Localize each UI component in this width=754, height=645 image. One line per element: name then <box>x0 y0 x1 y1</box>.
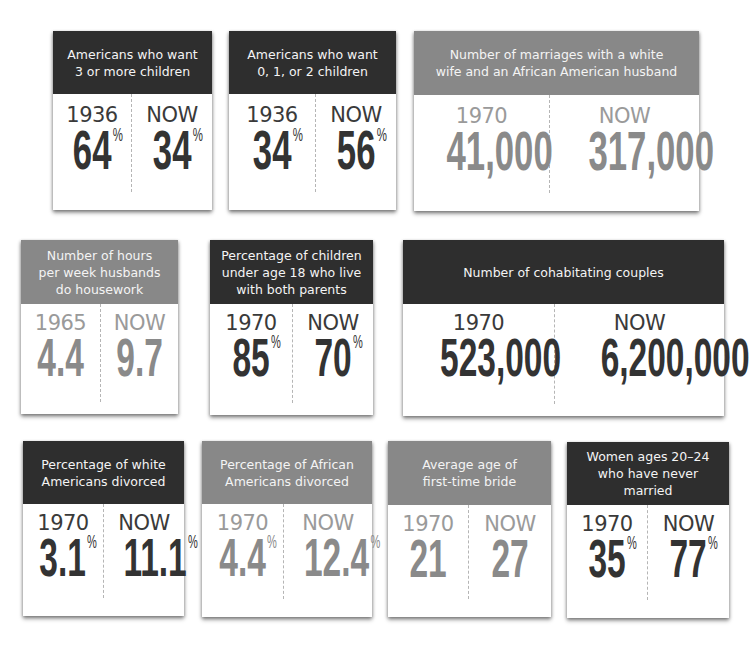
stat-value: 9.7 <box>116 330 163 384</box>
stat-value: 3.1% <box>40 530 87 584</box>
card-title-line: Americans divorced <box>42 474 166 489</box>
card-title-line: Percentage of white <box>41 457 166 472</box>
card-title-line: Number of marriages with a white <box>450 47 664 62</box>
stat-then: 1970 85% <box>210 304 292 415</box>
stat-value: 41,000 <box>447 123 553 179</box>
stat-value: 56% <box>337 122 376 178</box>
card-title-line: Women ages 20–24 <box>587 449 710 464</box>
stat-now: NOW 77% <box>648 505 729 618</box>
stat-value: 34% <box>153 122 192 178</box>
card-header: Number of marriages with a whitewife and… <box>414 31 699 95</box>
card-husband-housework-hours: Number of hoursper week husbandsdo house… <box>21 240 178 414</box>
card-children-both-parents: Percentage of childrenunder age 18 who l… <box>210 240 373 415</box>
card-header: Average age offirst-time bride <box>388 441 551 505</box>
stat-value: 523,000 <box>440 330 561 384</box>
card-title-line: Percentage of African <box>220 457 354 472</box>
card-african-americans-divorced: Percentage of AfricanAmericans divorced … <box>202 441 372 617</box>
card-interracial-marriages: Number of marriages with a whitewife and… <box>414 31 699 211</box>
stat-value: 11.1% <box>123 530 186 584</box>
stat-now: NOW 11.1% <box>104 504 184 616</box>
card-white-americans-divorced: Percentage of whiteAmericans divorced 19… <box>23 441 184 616</box>
stat-then: 1970 41,000 <box>414 95 549 211</box>
card-header: Percentage of childrenunder age 18 who l… <box>210 240 373 304</box>
card-title-line: under age 18 who live <box>222 265 362 280</box>
stat-value: 70% <box>314 330 351 384</box>
card-avg-age-first-bride: Average age offirst-time bride 1970 21 N… <box>388 441 551 617</box>
card-header: Number of hoursper week husbandsdo house… <box>21 240 178 304</box>
stat-value: 27 <box>491 531 528 585</box>
stat-value: 4.4% <box>219 530 266 584</box>
stat-now: NOW 56% <box>316 94 396 210</box>
stat-value: 21 <box>409 531 446 585</box>
stat-then: 1936 64% <box>53 94 131 210</box>
stat-value: 4.4 <box>37 330 84 384</box>
stat-value: 34% <box>253 122 292 178</box>
stat-now: NOW 6,200,000 <box>555 304 724 416</box>
card-title-line: 0, 1, or 2 children <box>257 64 368 79</box>
card-title-line: Number of cohabitating couples <box>463 265 664 280</box>
stat-now: NOW 34% <box>132 94 212 210</box>
card-title-line: first-time bride <box>423 474 516 489</box>
card-want-3-plus-children: Americans who want3 or more children 193… <box>53 31 212 210</box>
stat-then: 1970 35% <box>567 505 647 618</box>
card-header: Women ages 20–24who have never married <box>567 442 729 505</box>
card-title-line: Average age of <box>422 457 517 472</box>
card-header: Number of cohabitating couples <box>403 240 724 304</box>
stat-then: 1970 21 <box>388 505 468 617</box>
stat-value: 77% <box>670 531 707 585</box>
card-want-0-2-children: Americans who want0, 1, or 2 children 19… <box>229 31 396 210</box>
card-title-line: who have never married <box>598 466 698 498</box>
stat-now: NOW 317,000 <box>550 95 699 211</box>
card-title-line: wife and an African American husband <box>436 64 678 79</box>
card-cohabitating-couples: Number of cohabitating couples 1970 523,… <box>403 240 724 416</box>
card-title-line: per week husbands <box>39 265 161 280</box>
stat-then: 1970 4.4% <box>202 504 283 617</box>
stat-value: 317,000 <box>588 123 714 179</box>
card-title-line: Americans who want <box>247 47 377 62</box>
card-header: Percentage of whiteAmericans divorced <box>23 441 184 504</box>
stat-value: 6,200,000 <box>601 330 750 384</box>
card-title-line: Americans divorced <box>225 474 349 489</box>
stat-now: NOW 9.7 <box>101 304 178 414</box>
stat-then: 1970 523,000 <box>403 304 554 416</box>
card-title-line: 3 or more children <box>75 64 190 79</box>
card-header: Americans who want0, 1, or 2 children <box>229 31 396 94</box>
card-title-line: do housework <box>56 282 144 297</box>
stat-value: 12.4% <box>304 530 369 584</box>
stat-now: NOW 70% <box>293 304 373 415</box>
stat-then: 1970 3.1% <box>23 504 103 616</box>
stat-then: 1965 4.4 <box>21 304 100 414</box>
card-title-line: Americans who want <box>67 47 197 62</box>
card-header: Percentage of AfricanAmericans divorced <box>202 441 372 504</box>
card-title-line: Number of hours <box>47 248 152 263</box>
stat-now: NOW 12.4% <box>284 504 372 617</box>
card-title-line: Percentage of children <box>221 248 361 263</box>
card-title-line: with both parents <box>236 282 346 297</box>
card-women-never-married: Women ages 20–24who have never married 1… <box>567 442 729 618</box>
stat-value: 64% <box>73 122 112 178</box>
card-header: Americans who want3 or more children <box>53 31 212 94</box>
stat-value: 85% <box>232 330 269 384</box>
stat-now: NOW 27 <box>469 505 551 617</box>
stat-value: 35% <box>588 531 625 585</box>
stat-then: 1936 34% <box>229 94 315 210</box>
